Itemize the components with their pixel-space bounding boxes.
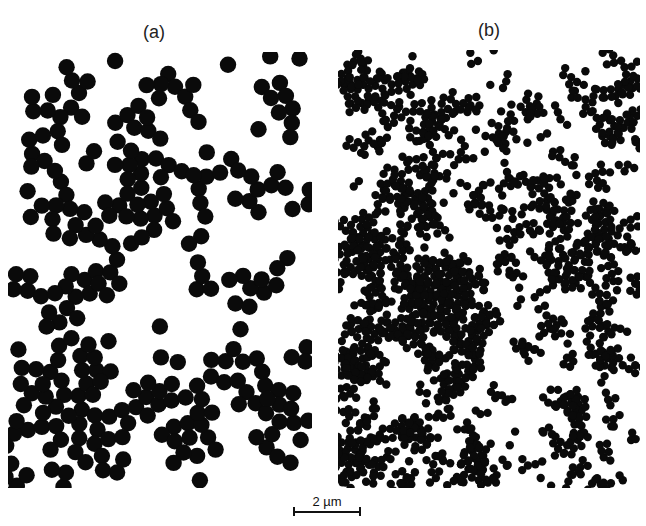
scale-bar: 2 µm	[292, 494, 362, 522]
particle-layer	[8, 52, 312, 488]
particle-layer	[338, 50, 640, 488]
scale-bar-tick-right	[359, 507, 361, 516]
scale-bar-line	[294, 511, 360, 513]
panel-a-label: (a)	[143, 22, 165, 43]
panel-b-label: (b)	[478, 20, 500, 41]
scale-bar-tick-left	[293, 507, 295, 516]
scale-bar-label: 2 µm	[292, 494, 362, 509]
micrograph-panel-b	[338, 50, 640, 488]
micrograph-panel-a	[8, 52, 312, 488]
